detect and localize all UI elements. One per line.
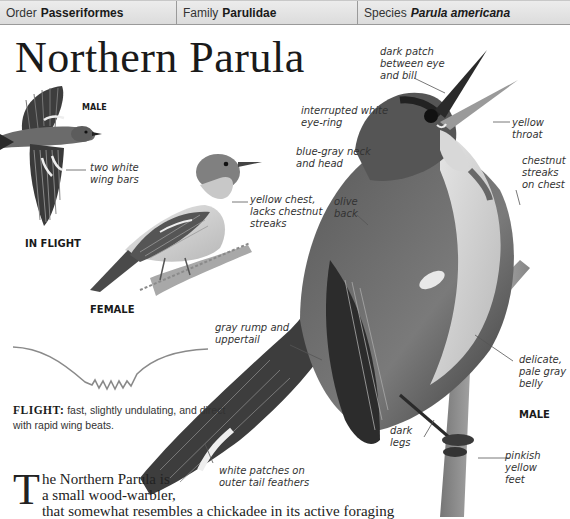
gray-rump-label: gray rump and uppertail	[215, 322, 289, 346]
eye-ring-label: interrupted white eye-ring	[301, 105, 388, 129]
flight-description: FLIGHT: fast, slightly undulating, and d…	[13, 403, 233, 433]
olive-back-label: olive back	[334, 196, 358, 220]
body-paragraph: T he Northern Parula is a small wood-war…	[13, 471, 570, 519]
dark-patch-label: dark patch between eye and bill	[380, 46, 445, 82]
yellow-throat-label: yellow throat	[512, 117, 544, 141]
body-line-3: that somewhat resembles a chickadee in i…	[0, 503, 570, 519]
female-caption: FEMALE	[90, 304, 135, 315]
female-chest-label: yellow chest, lacks chestnut streaks	[250, 194, 322, 230]
in-flight-caption: IN FLIGHT	[25, 238, 81, 249]
in-flight-male-caption: MALE	[82, 103, 107, 112]
flight-path-icon	[13, 347, 208, 389]
body-line-1: he Northern Parula is	[13, 471, 570, 487]
dark-legs-label: dark legs	[390, 425, 412, 449]
body-line-2: a small wood-warbler,	[13, 487, 570, 503]
wing-bars-label: two white wing bars	[90, 162, 139, 186]
drop-cap: T	[13, 472, 40, 508]
neck-head-label: blue-gray neck and head	[296, 146, 371, 170]
male-caption: MALE	[519, 409, 550, 420]
belly-label: delicate, pale gray belly	[519, 354, 566, 390]
flight-label: FLIGHT:	[13, 404, 64, 416]
chestnut-streaks-label: chestnut streaks on chest	[522, 155, 566, 191]
